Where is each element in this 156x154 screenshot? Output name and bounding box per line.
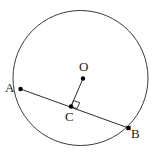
point-b-dot — [126, 126, 130, 130]
point-a-dot — [18, 87, 22, 91]
chord-ab-segment — [21, 89, 129, 128]
point-b-label: B — [131, 127, 140, 140]
geometry-figure: A O C B — [0, 0, 156, 154]
point-o-label: O — [79, 60, 88, 73]
point-o-dot — [81, 76, 85, 80]
circle-shape — [13, 11, 148, 146]
point-a-label: A — [5, 81, 14, 94]
point-c-label: C — [65, 110, 74, 123]
